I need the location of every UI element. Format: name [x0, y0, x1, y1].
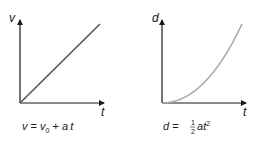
y-axis-label: d — [152, 11, 159, 25]
y-axis-label: v — [9, 11, 16, 25]
kinematics-diagram: v t v = v0 + at d t d = 1 2 at2 — [0, 0, 265, 142]
fraction-denominator: 2 — [191, 128, 195, 135]
distance-curve — [162, 24, 242, 103]
x-axis-label: t — [101, 105, 105, 119]
x-axis-label: t — [243, 105, 247, 119]
velocity-graph: v t v = v0 + at — [9, 11, 105, 134]
distance-graph: d t d = 1 2 at2 — [152, 11, 247, 135]
velocity-line — [20, 24, 100, 103]
distance-formula: d = — [163, 120, 179, 132]
velocity-formula: v = v0 + at — [22, 120, 74, 134]
distance-formula-rest: at2 — [197, 120, 210, 132]
fraction-numerator: 1 — [191, 119, 195, 126]
